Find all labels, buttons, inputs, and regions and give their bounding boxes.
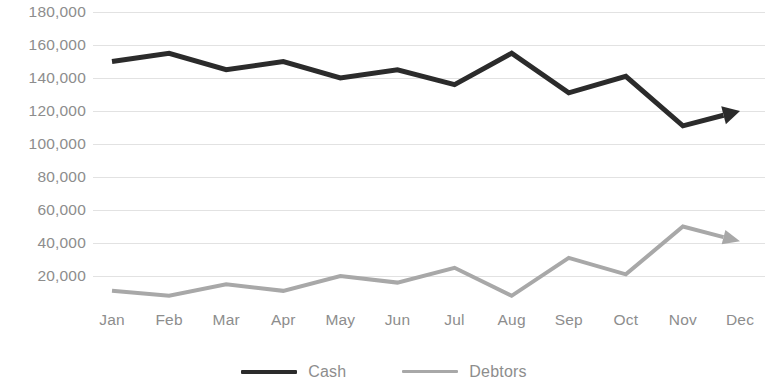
legend-label: Debtors — [469, 364, 526, 380]
y-tick-label: 120,000 — [2, 103, 86, 119]
y-tick-label: 40,000 — [2, 235, 86, 251]
x-tick-label-may: May — [325, 312, 355, 328]
series-line-debtors — [112, 227, 724, 296]
x-tick-label-jan: Jan — [99, 312, 125, 328]
x-axis: JanFebMarAprMayJunJulAugSepOctNovDec — [0, 312, 768, 342]
legend-item-cash[interactable]: Cash — [241, 364, 346, 380]
x-tick-label-aug: Aug — [498, 312, 526, 328]
series-arrowhead-cash — [721, 106, 740, 124]
x-tick-label-jul: Jul — [444, 312, 464, 328]
y-axis: 180,000160,000140,000120,000100,00080,00… — [0, 0, 86, 320]
x-tick-label-feb: Feb — [155, 312, 182, 328]
legend-swatch-icon — [402, 370, 458, 373]
x-tick-label-jun: Jun — [385, 312, 411, 328]
x-tick-label-dec: Dec — [726, 312, 754, 328]
x-tick-label-mar: Mar — [213, 312, 240, 328]
chart-legend: CashDebtors — [0, 358, 768, 385]
line-chart: 180,000160,000140,000120,000100,00080,00… — [0, 0, 768, 385]
x-tick-label-oct: Oct — [613, 312, 638, 328]
y-tick-label: 60,000 — [2, 202, 86, 218]
gridlines — [93, 13, 765, 277]
y-tick-label: 80,000 — [2, 169, 86, 185]
x-tick-label-sep: Sep — [555, 312, 583, 328]
legend-label: Cash — [308, 364, 346, 380]
y-tick-label: 140,000 — [2, 70, 86, 86]
y-tick-label: 180,000 — [2, 4, 86, 20]
series-arrowhead-debtors — [722, 230, 740, 244]
series-line-cash — [112, 53, 724, 126]
x-tick-label-nov: Nov — [669, 312, 697, 328]
y-tick-label: 160,000 — [2, 37, 86, 53]
series-layer — [112, 53, 740, 296]
y-tick-label: 100,000 — [2, 136, 86, 152]
legend-item-debtors[interactable]: Debtors — [402, 364, 526, 380]
y-tick-label: 20,000 — [2, 268, 86, 284]
x-tick-label-apr: Apr — [271, 312, 296, 328]
legend-swatch-icon — [241, 370, 297, 374]
